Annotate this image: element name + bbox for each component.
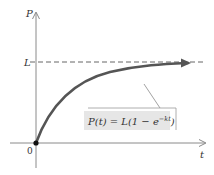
origin-point [33,140,38,145]
leader-line [144,84,160,108]
y-axis-label: P [25,8,33,19]
growth-curve [36,63,188,143]
asymptote-label: L [23,57,31,68]
x-axis-label: t [200,149,205,160]
origin-label: 0 [27,146,33,156]
logistic-growth-diagram: P t L 0 P(t) = L(1 − e−kt) [0,0,214,175]
curve-arrowhead-icon [181,59,191,68]
